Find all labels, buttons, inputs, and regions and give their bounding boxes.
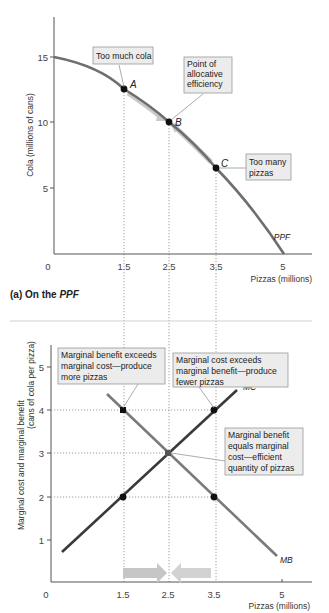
- callout-allocative-efficiency: Point of allocative efficiency: [171, 57, 232, 120]
- svg-text:Too many: Too many: [249, 157, 287, 167]
- point-c-label: C: [221, 158, 229, 169]
- mcmb-x-tick: 3.5: [207, 589, 220, 600]
- svg-text:fewer pizzas: fewer pizzas: [176, 377, 224, 387]
- svg-text:Too much cola: Too much cola: [96, 51, 152, 61]
- point-c: [213, 165, 220, 172]
- mcmb-x-tick: 0: [43, 589, 48, 600]
- mcmb-y-tick: 4: [39, 405, 44, 416]
- mb-label: MB: [280, 555, 293, 565]
- callout-mc-exceeds-mb: Marginal cost exceeds marginal benefit—p…: [173, 353, 288, 408]
- mcmb-y-tick: 5: [39, 362, 44, 373]
- point-b-label: B: [175, 117, 182, 128]
- svg-text:Marginal benefit: Marginal benefit: [228, 430, 290, 440]
- ppf-x-tick: 1.5: [117, 261, 130, 272]
- ppf-panel: 15 10 5 Cola (millions of cans) 0 1.5 2.…: [10, 17, 312, 582]
- mcmb-x-axis-label: Pizzas (millions): [249, 601, 311, 611]
- svg-text:Point of: Point of: [187, 59, 217, 69]
- svg-text:Marginal benefit exceeds: Marginal benefit exceeds: [61, 350, 157, 360]
- mcmb-y-tick: 1: [39, 535, 44, 546]
- ppf-x-tick: 2.5: [162, 261, 175, 272]
- mc-curve: [62, 390, 237, 552]
- point-mb-3-5: [211, 494, 218, 501]
- svg-text:Marginal cost exceeds: Marginal cost exceeds: [176, 355, 262, 365]
- svg-text:allocative: allocative: [187, 69, 223, 79]
- ppf-y-tick: 5: [43, 183, 48, 194]
- mcmb-x-tick: 5: [279, 589, 284, 600]
- ppf-y-tick: 10: [37, 117, 48, 128]
- svg-text:quantity of pizzas: quantity of pizzas: [228, 463, 294, 473]
- svg-text:cost—efficient: cost—efficient: [228, 452, 282, 462]
- ppf-y-axis-label: Cola (millions of cans): [25, 93, 35, 177]
- panel-a-caption: (a) On the PPF: [10, 289, 80, 300]
- mcmb-y-tick: 2: [39, 492, 44, 503]
- ppf-x-tick: 3.5: [209, 261, 222, 272]
- svg-text:marginal benefit—produce: marginal benefit—produce: [176, 366, 277, 376]
- chart-canvas: 15 10 5 Cola (millions of cans) 0 1.5 2.…: [0, 0, 329, 613]
- svg-text:pizzas: pizzas: [249, 168, 273, 178]
- mc-mb-panel: 5 4 3 2 1 Marginal cost and marginal ben…: [16, 341, 312, 611]
- callout-too-many-pizzas: Too many pizzas: [219, 154, 291, 180]
- callout-mb-equals-mc: Marginal benefit equals marginal cost—ef…: [171, 428, 303, 475]
- point-mc-1-5: [120, 494, 127, 501]
- mcmb-y-axis-label: Marginal cost and marginal benefit: [16, 399, 26, 530]
- svg-text:more pizzas: more pizzas: [61, 372, 107, 382]
- svg-text:efficiency: efficiency: [187, 79, 223, 89]
- ppf-x-tick: 0: [45, 261, 50, 272]
- ppf-y-tick: 15: [37, 52, 48, 63]
- arrow-toward-b-from-a: [128, 93, 162, 118]
- mcmb-y-axis-sublabel: (cans of cola per pizza): [26, 341, 36, 429]
- point-a-label: A: [129, 79, 137, 90]
- ppf-x-tick: 5: [280, 261, 285, 272]
- callout-too-much-cola: Too much cola: [93, 47, 153, 87]
- svg-text:equals marginal: equals marginal: [228, 441, 289, 451]
- mcmb-y-tick: 3: [39, 448, 44, 459]
- mcmb-x-tick: 1.5: [116, 589, 129, 600]
- point-equilibrium: [165, 450, 171, 456]
- mcmb-x-tick: 2.5: [161, 589, 174, 600]
- convergence-arrows: [123, 563, 211, 583]
- ppf-x-axis-label: Pizzas (millions): [251, 274, 313, 284]
- ppf-curve-label: PPF: [274, 232, 291, 242]
- svg-text:marginal cost—produce: marginal cost—produce: [61, 361, 152, 371]
